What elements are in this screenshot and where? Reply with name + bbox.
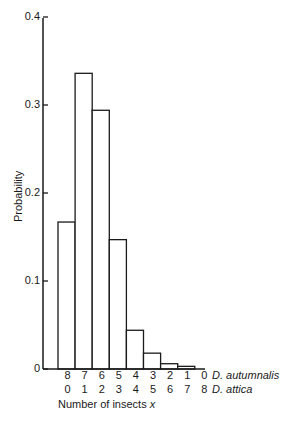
x-tick-label: 8: [59, 369, 76, 381]
x-tick-label: 2: [93, 383, 110, 395]
chart-canvas: [0, 0, 292, 421]
x-tick-label: 6: [93, 369, 110, 381]
bar: [58, 222, 75, 369]
x-tick-label: 4: [127, 383, 144, 395]
x-axis-label: Number of insects x: [58, 398, 155, 410]
x-tick-label: 3: [145, 369, 162, 381]
x-tick-label: 2: [162, 369, 179, 381]
y-tick-label: 0.3: [10, 98, 40, 110]
x-tick-label: 7: [76, 369, 93, 381]
x-tick-label: 1: [76, 383, 93, 395]
series-label-autumnalis: D. autumnalis: [212, 369, 279, 381]
bars: [58, 73, 195, 369]
bar: [75, 73, 92, 369]
y-tick-label: 0: [10, 362, 40, 374]
series-label-attica: D. attica: [212, 383, 252, 395]
x-tick-label: 8: [196, 383, 213, 395]
y-axis-label: Probability: [12, 171, 24, 222]
x-tick-label: 1: [179, 369, 196, 381]
x-tick-label: 0: [196, 369, 213, 381]
x-tick-label: 3: [110, 383, 127, 395]
x-tick-label: 5: [145, 383, 162, 395]
bar: [92, 110, 109, 369]
y-tick-label: 0.1: [10, 274, 40, 286]
y-tick-label: 0.4: [10, 10, 40, 22]
x-tick-label: 6: [162, 383, 179, 395]
x-tick-label: 5: [110, 369, 127, 381]
x-tick-label: 0: [59, 383, 76, 395]
x-tick-label: 4: [127, 369, 144, 381]
x-axis-label-text: Number of insects: [58, 398, 150, 410]
bar: [144, 353, 161, 369]
bar: [126, 330, 143, 369]
x-tick-label: 7: [179, 383, 196, 395]
x-axis-label-var: x: [150, 398, 156, 410]
bar: [109, 240, 126, 369]
